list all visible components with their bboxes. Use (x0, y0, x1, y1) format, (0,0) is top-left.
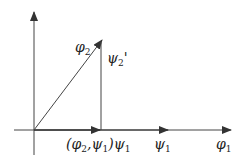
phi2-label: φ2 (75, 40, 91, 57)
phi1-label: φ1 (216, 137, 232, 154)
psi1-label: ψ1 (154, 137, 171, 154)
phi2-vector (34, 40, 102, 130)
projection-label: (φ2,ψ1)ψ1 (66, 137, 130, 154)
psi2-prime-label: ψ2' (107, 51, 128, 68)
